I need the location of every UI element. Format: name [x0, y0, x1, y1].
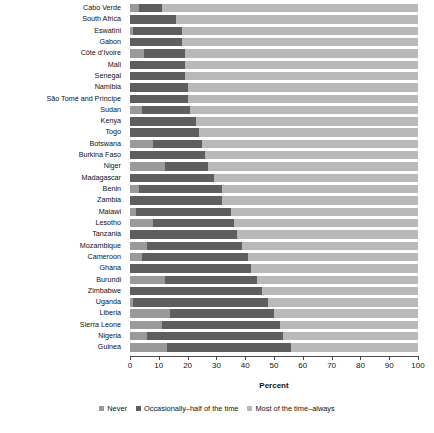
bar-segment	[170, 309, 274, 317]
bar-segment	[139, 4, 162, 12]
category-label: Malawi	[0, 208, 126, 216]
bar-row	[130, 174, 418, 182]
bar-segment	[202, 140, 418, 148]
bar-segment	[162, 321, 280, 329]
category-label: Zimbabwe	[0, 287, 126, 295]
bar-segment	[248, 253, 418, 261]
x-axis-tick-label: 100	[411, 361, 424, 370]
bar-row	[130, 298, 418, 306]
bar-segment	[190, 106, 418, 114]
category-label: Mali	[0, 61, 126, 69]
x-axis-tick	[360, 356, 361, 360]
bar-segment	[130, 219, 153, 227]
bar-segment	[130, 151, 205, 159]
bar-row	[130, 242, 418, 250]
x-axis-tick-label: 60	[298, 361, 307, 370]
bar-segment	[130, 95, 188, 103]
legend-label: Occasionally–half of the time	[144, 404, 238, 413]
category-label: Cameroon	[0, 253, 126, 261]
category-axis-labels: Cabo VerdeSouth AfricaEswatiniGabonCôte …	[0, 4, 126, 352]
bar-segment	[144, 49, 184, 57]
bar-segment	[130, 162, 165, 170]
bar-segment	[130, 287, 262, 295]
bar-segment	[283, 332, 418, 340]
category-label: Mozambique	[0, 242, 126, 250]
bar-segment	[130, 276, 165, 284]
bar-segment	[130, 49, 144, 57]
legend-label: Never	[107, 404, 127, 413]
bar-row	[130, 253, 418, 261]
stacked-bar-chart: Cabo VerdeSouth AfricaEswatiniGabonCôte …	[0, 0, 434, 433]
bar-segment	[130, 309, 170, 317]
bar-segment	[130, 128, 199, 136]
category-label: Sierra Leone	[0, 321, 126, 329]
bar-segment	[257, 276, 418, 284]
bar-segment	[130, 242, 147, 250]
bar-segment	[280, 321, 418, 329]
legend-item: Never	[99, 404, 127, 413]
bar-segment	[142, 253, 249, 261]
plot-area	[130, 4, 418, 352]
bar-segment	[130, 106, 142, 114]
bar-segment	[133, 298, 268, 306]
bar-segment	[136, 208, 231, 216]
category-label: Guinea	[0, 343, 126, 351]
bar-segment	[153, 140, 202, 148]
bar-row	[130, 61, 418, 69]
x-axis-tick-label: 20	[183, 361, 192, 370]
x-axis-tick	[274, 356, 275, 360]
legend-item: Most of the time–always	[247, 404, 334, 413]
bar-segment	[196, 117, 418, 125]
bar-segment	[130, 230, 237, 238]
bar-segment	[130, 264, 251, 272]
bar-segment	[130, 140, 153, 148]
legend-label: Most of the time–always	[255, 404, 334, 413]
bar-segment	[251, 264, 418, 272]
bar-segment	[130, 72, 185, 80]
category-label: Ghana	[0, 264, 126, 272]
category-label: Botswana	[0, 140, 126, 148]
bar-segment	[185, 72, 418, 80]
bar-segment	[130, 117, 196, 125]
legend-item: Occasionally–half of the time	[136, 404, 238, 413]
bar-segment	[242, 242, 418, 250]
category-label: Senegal	[0, 72, 126, 80]
bar-segment	[130, 174, 214, 182]
x-axis-tick	[245, 356, 246, 360]
bar-segment	[214, 174, 418, 182]
bar-row	[130, 343, 418, 351]
bar-row	[130, 185, 418, 193]
bar-row	[130, 83, 418, 91]
category-label: Niger	[0, 162, 126, 170]
bar-segment	[162, 4, 418, 12]
bar-row	[130, 140, 418, 148]
x-axis-tick	[159, 356, 160, 360]
category-label: Namibia	[0, 83, 126, 91]
bar-segment	[291, 343, 418, 351]
bar-row	[130, 321, 418, 329]
legend-swatch-icon	[99, 406, 104, 411]
bar-segment	[185, 49, 418, 57]
bar-segment	[188, 83, 418, 91]
bar-segment	[182, 27, 418, 35]
category-label: Côte d’Ivoire	[0, 49, 126, 57]
bar-segment	[153, 219, 234, 227]
x-axis-tick-label: 80	[356, 361, 365, 370]
bar-segment	[199, 128, 418, 136]
x-axis-tick-label: 40	[241, 361, 250, 370]
bar-segment	[130, 332, 147, 340]
category-label: Kenya	[0, 117, 126, 125]
bar-row	[130, 219, 418, 227]
x-axis-tick-label: 70	[327, 361, 336, 370]
x-axis-tick	[303, 356, 304, 360]
bar-segment	[205, 151, 418, 159]
category-label: Togo	[0, 128, 126, 136]
category-label: Zambia	[0, 196, 126, 204]
bar-segment	[182, 38, 418, 46]
bar-segment	[130, 185, 139, 193]
x-axis-tick	[188, 356, 189, 360]
bar-segment	[130, 15, 176, 23]
bar-segment	[130, 196, 222, 204]
category-label: South Africa	[0, 15, 126, 23]
bar-row	[130, 196, 418, 204]
